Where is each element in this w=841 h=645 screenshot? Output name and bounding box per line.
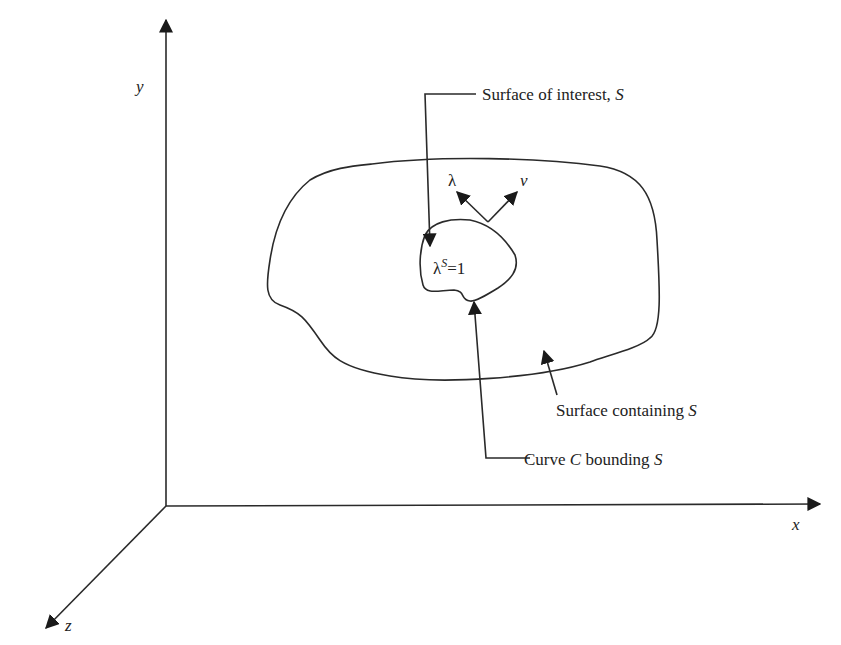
coordinate-axes [46,20,820,628]
curve-bounding-leader [474,302,530,458]
lambda-vector-arrow [457,192,488,222]
z-axis [46,506,166,628]
nu-vector-arrow [488,192,517,222]
lambda-s-equation: λS=1 [433,256,465,278]
nu-vector-label: ν [520,171,528,190]
x-axis-label: x [791,515,800,534]
x-axis [166,504,820,506]
z-axis-label: z [64,616,72,635]
surface-containing-label: Surface containing S [556,401,697,420]
surface-diagram: y x z λ ν λS=1 Surface of interest, S Cu… [0,0,841,645]
curve-bounding-label: Curve C bounding S [524,450,663,469]
surface-of-interest-label: Surface of interest, S [482,85,624,104]
surface-of-interest-leader [425,94,476,246]
lambda-vector-label: λ [448,171,457,190]
y-axis-label: y [134,77,144,96]
surface-containing-leader [544,351,557,395]
